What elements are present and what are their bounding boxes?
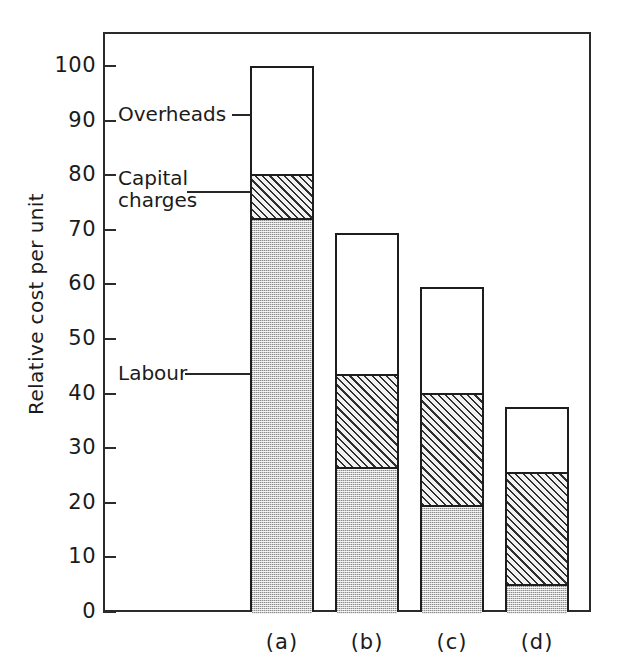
y-axis-tick-label: 10 [40, 546, 96, 567]
bar-segment-labour [507, 584, 567, 614]
y-axis-tick-label: 30 [40, 437, 96, 458]
y-axis-tick [103, 120, 116, 122]
y-axis-tick-label: 100 [40, 55, 96, 76]
bar-b [335, 233, 399, 612]
bar-chart: Relative cost per unit 01020304050607080… [0, 0, 617, 666]
y-axis-tick-label: 0 [40, 601, 96, 622]
bar-segment-labour [422, 505, 482, 614]
bar-segment-overheads [337, 235, 397, 374]
bar-segment-overheads [507, 409, 567, 472]
bar-d [505, 407, 569, 612]
bar-segment-overheads [252, 68, 312, 174]
annotation-overheads-leader-line [232, 114, 250, 116]
bar-segment-capital-charges [252, 174, 312, 218]
bar-c [420, 287, 484, 612]
y-axis-tick [103, 447, 116, 449]
annotation-capital-label-line1: Capital [118, 167, 197, 189]
y-axis-tick [103, 556, 116, 558]
annotation-capital-leader-line [187, 191, 250, 193]
y-axis-tick [103, 393, 116, 395]
annotation-labour: Labour [118, 362, 187, 384]
annotation-capital-label-line2: charges [118, 189, 197, 211]
bar-segment-labour [337, 467, 397, 614]
y-axis-tick [103, 338, 116, 340]
x-axis-tick-label: (d) [487, 630, 587, 654]
y-axis-tick [103, 502, 116, 504]
y-axis-tick [103, 283, 116, 285]
bar-segment-overheads [422, 289, 482, 393]
y-axis-tick [103, 611, 116, 613]
bar-segment-capital-charges [507, 472, 567, 584]
bar-segment-capital-charges [422, 393, 482, 505]
annotation-labour-label: Labour [118, 361, 187, 385]
bar-segment-capital-charges [337, 374, 397, 467]
annotation-capital-charges: Capital charges [118, 167, 197, 212]
y-axis-tick-label: 70 [40, 219, 96, 240]
bar-segment-labour [252, 218, 312, 614]
y-axis-tick [103, 229, 116, 231]
y-axis-tick [103, 65, 116, 67]
annotation-overheads-label: Overheads [118, 102, 226, 126]
annotation-labour-leader-line [185, 373, 250, 375]
y-axis-tick-label: 90 [40, 110, 96, 131]
y-axis-tick-label: 20 [40, 492, 96, 513]
y-axis-tick-label: 40 [40, 383, 96, 404]
y-axis-tick-labels: 0102030405060708090100 [38, 0, 96, 666]
y-axis-tick-label: 80 [40, 164, 96, 185]
y-axis-tick-label: 50 [40, 328, 96, 349]
annotation-overheads: Overheads [118, 103, 226, 125]
bar-a [250, 66, 314, 612]
y-axis-tick [103, 174, 116, 176]
y-axis-tick-label: 60 [40, 273, 96, 294]
